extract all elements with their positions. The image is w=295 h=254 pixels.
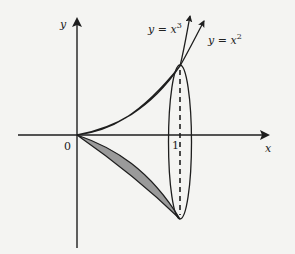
curve-label-x2-text: y = x <box>207 34 237 47</box>
tick-label-1: 1 <box>172 139 179 152</box>
curve-label-x3: y = x3 <box>147 21 182 36</box>
curve-x2-extension <box>180 21 204 66</box>
shaded-region-lower <box>77 135 180 219</box>
curve-label-x3-exp: 3 <box>177 21 182 30</box>
y-axis-label: y <box>59 18 67 31</box>
curve-label-x2-exp: 2 <box>237 32 242 41</box>
x-axis-label: x <box>265 142 272 155</box>
shaded-region-upper <box>77 66 180 135</box>
solid-of-revolution-diagram: y x 0 1 y = x3 y = x2 <box>0 0 295 254</box>
curve-label-x2: y = x2 <box>207 32 242 47</box>
svg-text:y = x3: y = x3 <box>147 21 182 36</box>
origin-label: 0 <box>64 140 71 153</box>
curve-label-x3-text: y = x <box>147 23 177 36</box>
svg-text:y = x2: y = x2 <box>207 32 242 47</box>
